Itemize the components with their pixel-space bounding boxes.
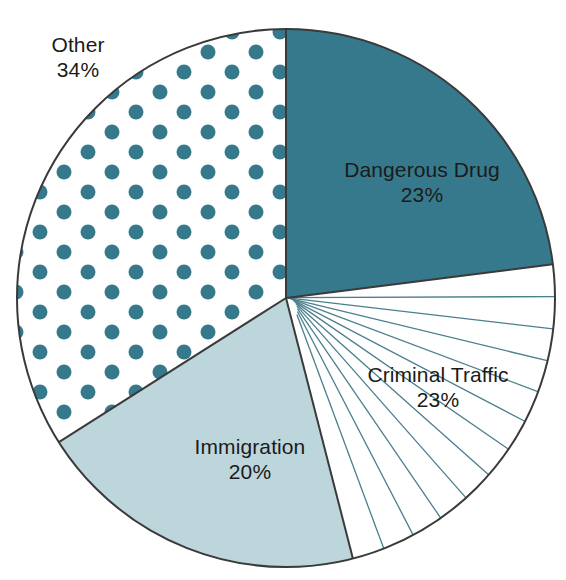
pie-chart-canvas [0, 0, 566, 580]
pie-chart: Other 34% Dangerous Drug 23% Criminal Tr… [0, 0, 566, 580]
pie-slice-dangerous-drug[interactable] [286, 29, 553, 298]
